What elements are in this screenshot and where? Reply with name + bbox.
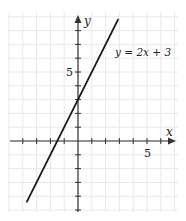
line-y-equals-2x-plus-3 — [27, 20, 118, 202]
x-axis-label: x — [166, 125, 173, 139]
grid — [8, 12, 178, 212]
y-axis-label: y — [83, 14, 91, 28]
equation-label: y = 2x + 3 — [114, 46, 171, 58]
line-graph: x y 5 5 y = 2x + 3 — [0, 0, 186, 221]
x-tick-label-5: 5 — [144, 147, 151, 160]
y-tick-label-5: 5 — [66, 66, 73, 79]
